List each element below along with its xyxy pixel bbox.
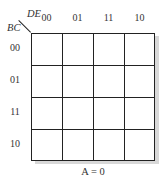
map-caption: A = 0 bbox=[0, 166, 166, 177]
kmap-grid bbox=[31, 33, 155, 161]
row-label-2: 11 bbox=[5, 106, 25, 117]
grid-divider bbox=[32, 129, 154, 130]
column-label-2: 11 bbox=[93, 12, 124, 23]
row-label-3: 10 bbox=[5, 138, 25, 149]
column-label-0: 00 bbox=[31, 12, 62, 23]
row-variables-label: BC bbox=[7, 22, 20, 33]
row-label-0: 00 bbox=[5, 42, 25, 53]
grid-divider bbox=[32, 65, 154, 66]
grid-divider bbox=[32, 97, 154, 98]
row-label-1: 01 bbox=[5, 74, 25, 85]
column-label-3: 10 bbox=[124, 12, 155, 23]
column-label-1: 01 bbox=[62, 12, 93, 23]
